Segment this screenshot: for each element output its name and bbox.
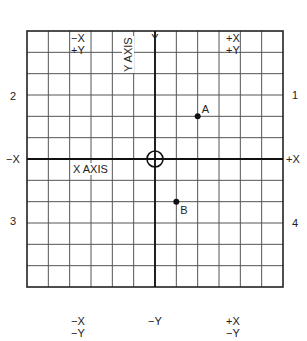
point-a-marker xyxy=(195,113,201,119)
quadrant-2-label: 2 xyxy=(10,90,16,102)
bottom-right-label: +X−Y xyxy=(218,291,248,341)
left-neg-x-label: −X xyxy=(6,153,20,165)
quadrant-1-label: 1 xyxy=(292,89,298,101)
top-left-label: −X+Y xyxy=(63,8,93,68)
point-a-label: A xyxy=(202,103,209,115)
bottom-center-label: −Y xyxy=(140,291,170,339)
quadrant-3-label: 3 xyxy=(10,215,16,227)
point-b-label: B xyxy=(180,204,187,216)
x-axis-label: X AXIS xyxy=(72,163,109,175)
y-axis-label: Y AXIS xyxy=(122,36,134,73)
top-right-label: +X+Y xyxy=(218,8,248,68)
right-pos-x-label: +X xyxy=(286,153,300,165)
top-center-label: Y xyxy=(140,8,170,56)
quadrant-4-label: 4 xyxy=(292,217,298,229)
point-b-marker xyxy=(173,199,179,205)
bottom-left-label: −X−Y xyxy=(63,291,93,341)
